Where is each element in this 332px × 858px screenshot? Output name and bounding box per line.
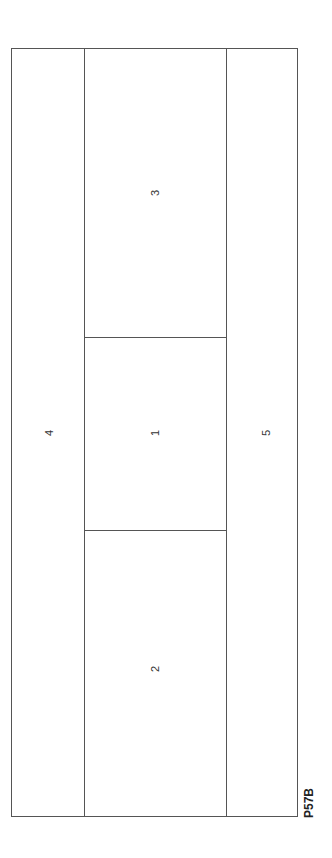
- region-label: 4: [43, 423, 55, 443]
- region-label: 2: [149, 659, 161, 679]
- region-2: 2: [84, 530, 226, 816]
- region-1: 1: [84, 337, 226, 530]
- diagram-code: P57B: [302, 788, 316, 818]
- region-label: 5: [260, 423, 272, 443]
- layout-frame: 4 3 1 2 5: [11, 48, 298, 817]
- region-5: 5: [226, 49, 297, 816]
- region-label: 1: [149, 423, 161, 443]
- region-4: 4: [12, 49, 84, 816]
- region-label: 3: [149, 183, 161, 203]
- region-3: 3: [84, 49, 226, 337]
